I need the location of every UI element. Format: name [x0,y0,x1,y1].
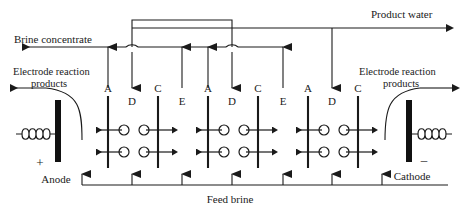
feed-brine-label: Feed brine [207,193,254,205]
label-C-cell-1: C [154,82,161,94]
product-water-label: Product water [371,8,433,20]
cathode-electrode [406,100,412,162]
label-C-cell-3: C [354,82,361,94]
diagram-canvas: Brine concentrate Product water Electrod… [0,0,460,214]
anode-products-pipe [46,88,82,140]
anode-polarity-sign: + [36,155,43,170]
label-A-cell-1: A [104,82,112,94]
electrode-products-right-label-line2: products [383,78,419,89]
cathode-products-pipe [385,88,420,140]
concentrate-bridge-header [108,20,232,88]
electrode-products-right-label-line1: Electrode reaction [359,66,436,77]
label-E-cell-1: E [179,95,186,107]
anode-coil-icon [16,129,55,140]
brine-concentrate-label: Brine concentrate [14,33,92,45]
cathode-polarity-sign: – [420,152,428,167]
label-E-cell-2: E [280,95,287,107]
anode-electrode [55,100,61,162]
label-C-cell-2: C [254,82,261,94]
label-A-cell-3: A [304,82,312,94]
label-D-cell-1: D [128,95,136,107]
cathode-assembly [385,88,452,162]
label-D-cell-2: D [228,95,236,107]
cathode-coil-icon [412,129,452,140]
bridge-upper-1 [132,20,232,28]
electrode-products-left-label-line2: products [31,78,67,89]
anode-assembly [10,88,82,162]
electrode-products-left-label-line1: Electrode reaction [13,66,90,77]
electrodialysis-stack-svg: Brine concentrate Product water Electrod… [0,0,460,214]
label-D-cell-3: D [328,95,336,107]
cathode-label: Cathode [394,170,431,182]
label-A-cell-2: A [204,82,212,94]
anode-label: Anode [41,173,70,185]
